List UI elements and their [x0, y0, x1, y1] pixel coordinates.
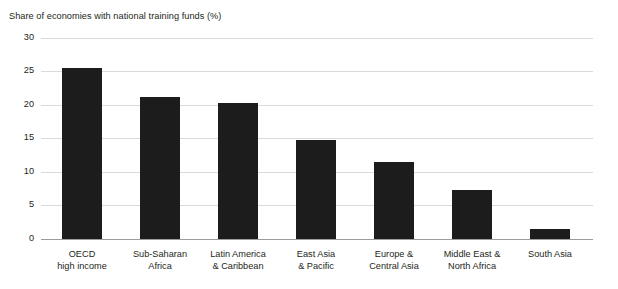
bar	[374, 162, 414, 239]
axis-baseline	[41, 239, 593, 240]
x-axis-label-line: North Africa	[420, 261, 524, 273]
bar	[62, 68, 102, 239]
bar	[452, 190, 492, 239]
y-axis-tick-label: 20	[24, 100, 34, 109]
y-axis-tick-label: 15	[24, 134, 34, 143]
gridline-30	[41, 38, 593, 39]
bar-chart: Share of economies with national trainin…	[0, 0, 618, 289]
y-axis-tick-label: 25	[24, 66, 34, 75]
gridline-25	[41, 71, 593, 72]
y-axis-tick-label: 10	[24, 167, 34, 176]
bar	[140, 97, 180, 239]
bar	[218, 103, 258, 239]
y-axis-tick-label: 30	[24, 33, 34, 42]
y-axis-tick-label: 5	[29, 201, 34, 210]
x-axis-label-line: South Asia	[498, 249, 602, 261]
chart-title: Share of economies with national trainin…	[9, 11, 221, 22]
plot-area: 051015202530	[41, 38, 593, 240]
x-axis-label: South Asia	[498, 249, 602, 261]
bar	[530, 229, 570, 239]
gridline-20	[41, 105, 593, 106]
x-axis-labels: OECDhigh incomeSub-SaharanAfricaLatin Am…	[41, 249, 593, 283]
bar	[296, 140, 336, 239]
y-axis-tick-label: 0	[29, 234, 34, 243]
